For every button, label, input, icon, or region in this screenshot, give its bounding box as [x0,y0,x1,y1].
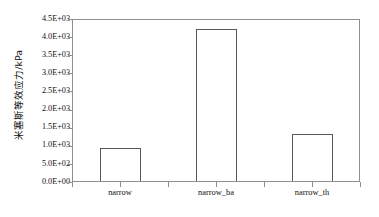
bar-narrow_ba [196,29,237,181]
y-axis-tick-label: 5.0E+02 [26,160,70,168]
x-axis-tick-mark [312,182,313,187]
y-axis-tick-label: 3.0E+03 [26,69,70,77]
x-axis-tick-mark [264,182,265,187]
y-axis-tick-label: 0.0E+00 [26,178,70,186]
x-axis-tick-mark [216,182,217,187]
y-axis-tick-label: 4.5E+03 [26,15,70,23]
y-axis-tick-label: 2.0E+03 [26,105,70,113]
y-axis-title-text: 米塞斯等效应力/kPa [14,50,24,140]
bar-chart: 米塞斯等效应力/kPa 0.0E+005.0E+021.0E+031.5E+03… [0,0,379,217]
plot-inner [73,20,359,181]
y-axis-tick-label: 1.0E+03 [26,141,70,149]
x-axis-tick-label: narrow [72,188,168,198]
bar-narrow [100,148,141,181]
x-axis-tick-mark [360,182,361,187]
x-axis-tick-mark [120,182,121,187]
y-axis-tick-labels: 0.0E+005.0E+021.0E+031.5E+032.0E+032.5E+… [26,0,70,217]
y-axis-tick-label: 3.5E+03 [26,51,70,59]
x-axis-tick-mark [72,182,73,187]
plot-area [72,19,360,182]
x-axis-tick-mark [168,182,169,187]
y-axis-tick-label: 1.5E+03 [26,123,70,131]
y-axis-tick-label: 2.5E+03 [26,87,70,95]
y-axis-tick-label: 4.0E+03 [26,33,70,41]
x-axis-tick-label: narrow_th [264,188,360,198]
x-axis-tick-label: narrow_ba [168,188,264,198]
bar-narrow_th [292,134,333,181]
